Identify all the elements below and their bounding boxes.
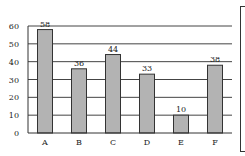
x-tick-label: F <box>212 138 218 147</box>
bar-F <box>208 65 223 133</box>
bar-value-label: 36 <box>74 59 84 68</box>
x-tick-label: A <box>41 138 48 147</box>
bar-value-label: 33 <box>142 64 152 73</box>
bar-E <box>174 115 189 133</box>
x-tick-label: C <box>110 138 116 147</box>
y-tick-label: 30 <box>9 76 19 85</box>
x-tick-label: B <box>76 138 82 147</box>
bars <box>38 30 223 133</box>
x-tick-label: E <box>178 138 184 147</box>
y-axis-tick-labels: 0102030405060 <box>9 22 19 138</box>
y-tick-label: 50 <box>9 40 19 49</box>
bar-value-labels: 583644331038 <box>40 20 220 115</box>
bar-B <box>72 69 87 133</box>
y-tick-label: 60 <box>9 22 19 31</box>
legend-box <box>240 6 245 152</box>
x-tick-label: D <box>144 138 150 147</box>
y-tick-label: 40 <box>9 58 19 67</box>
bar-C <box>106 55 121 133</box>
y-tick-label: 20 <box>9 93 19 102</box>
y-tick-label: 0 <box>14 129 19 138</box>
bar-A <box>38 30 53 133</box>
bar-D <box>140 74 155 133</box>
bar-value-label: 58 <box>40 20 50 29</box>
y-tick-label: 10 <box>9 111 19 120</box>
gridlines <box>28 26 232 115</box>
bar-value-label: 44 <box>108 45 118 54</box>
bar-value-label: 10 <box>176 105 186 114</box>
bar-chart: 0102030405060 583644331038 ABCDEF <box>0 0 245 156</box>
bar-value-label: 38 <box>210 55 220 64</box>
x-axis-category-labels: ABCDEF <box>41 138 218 147</box>
